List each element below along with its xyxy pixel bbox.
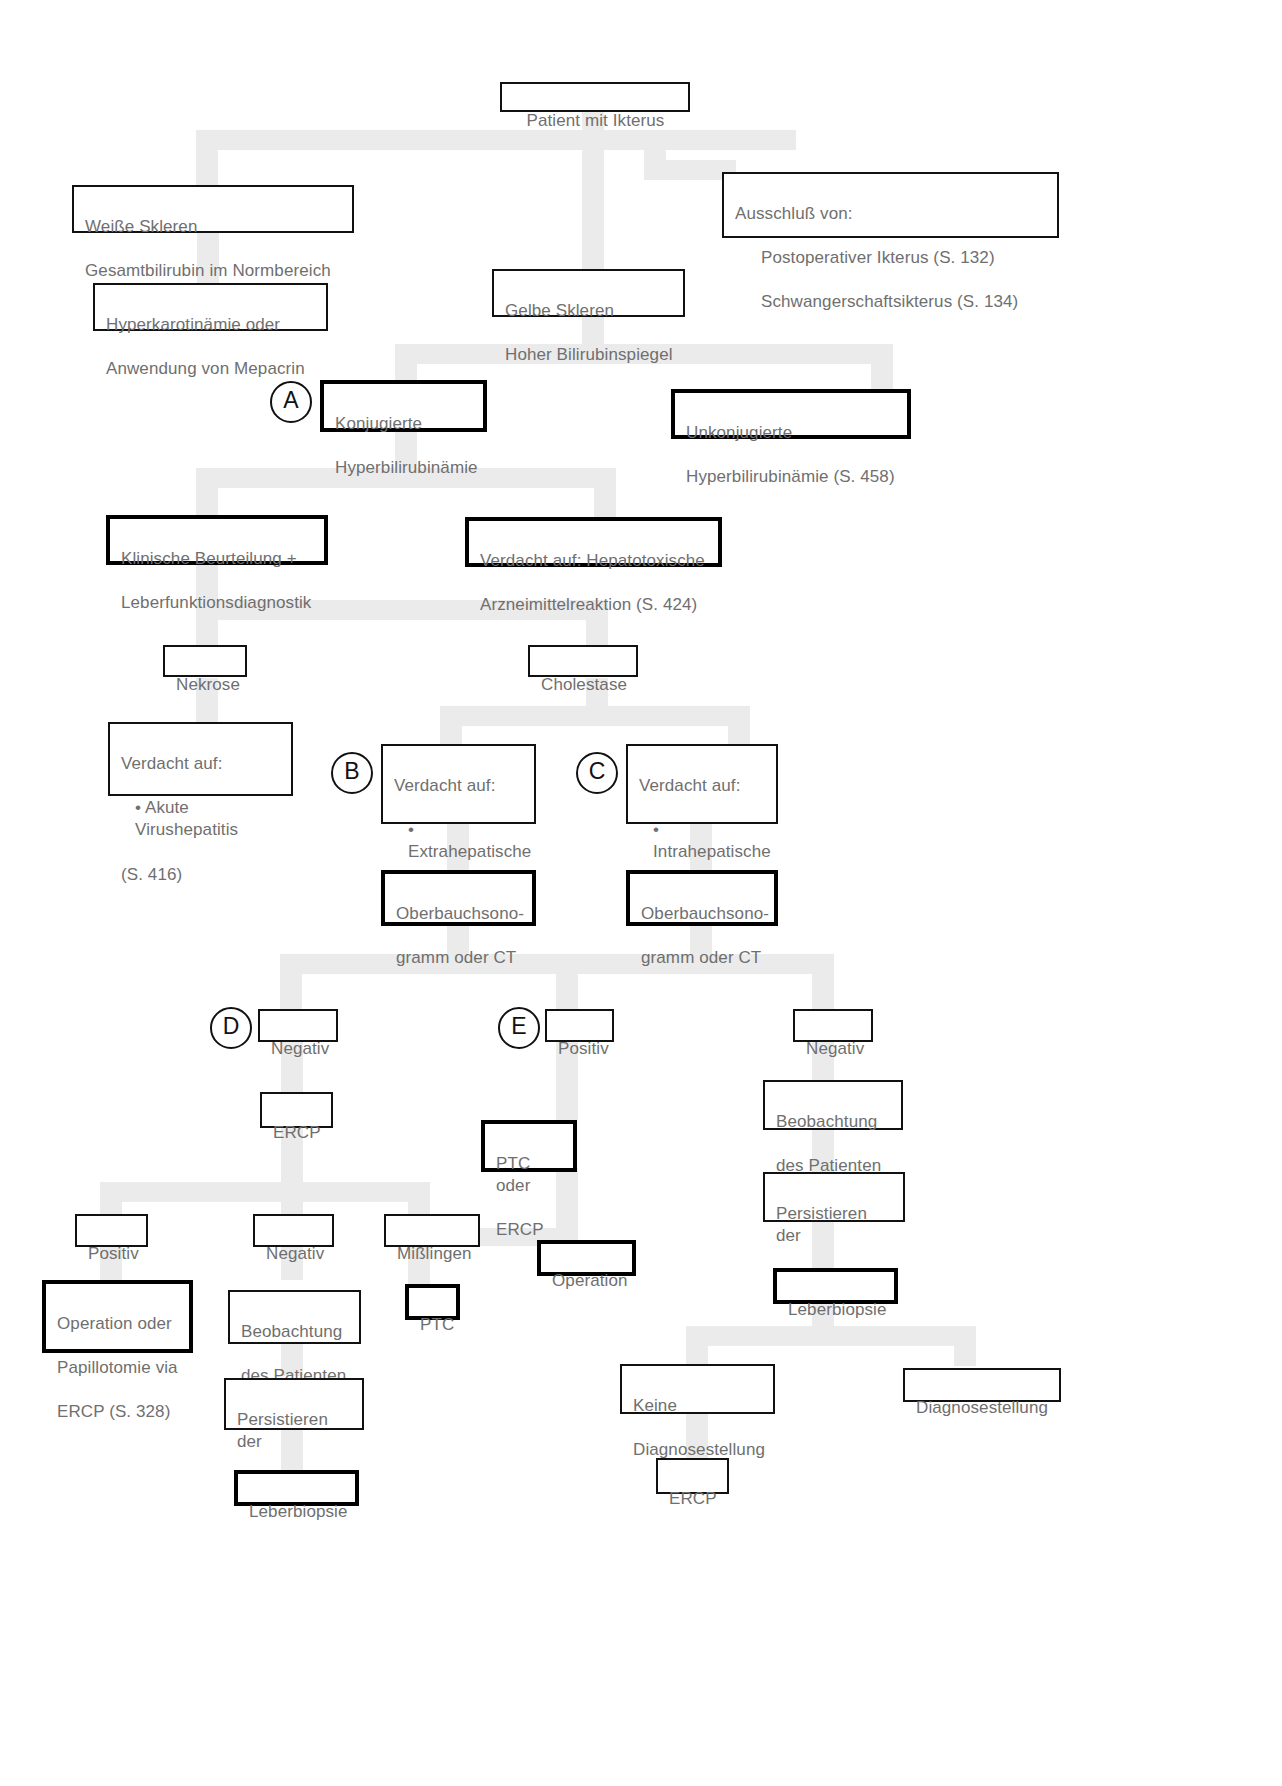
node-line-2: Leberfunktionsdiagnostik bbox=[121, 592, 314, 614]
node-text: Negativ bbox=[271, 1038, 326, 1060]
node-line-1: Oberbauchsono- bbox=[641, 903, 764, 925]
node-leberbiopsie-bottomleft[interactable]: Leberbiopsie bbox=[234, 1470, 359, 1506]
node-ptc-oder-ercp[interactable]: PTC oder ERCP bbox=[481, 1120, 577, 1172]
node-line-3: ERCP (S. 328) bbox=[57, 1401, 179, 1423]
node-ausschluss-von[interactable]: Ausschluß von: Postoperativer Ikterus (S… bbox=[722, 172, 1059, 238]
node-nekrose[interactable]: Nekrose bbox=[163, 645, 247, 677]
node-line-2: Hyperbilirubinämie bbox=[335, 457, 473, 479]
node-klinische-beurteilung[interactable]: Klinische Beurteilung + Leberfunktionsdi… bbox=[106, 515, 328, 565]
node-text: ERCP bbox=[273, 1122, 321, 1144]
node-line-1: Verdacht auf: bbox=[639, 775, 766, 797]
node-line-1: PTC oder bbox=[496, 1153, 563, 1197]
connector-cholestasis-to-b bbox=[440, 706, 462, 744]
node-hyperkarotinaemie[interactable]: Hyperkarotinämie oder Anwendung von Mepa… bbox=[93, 283, 328, 331]
node-line-1: Oberbauchsono- bbox=[396, 903, 522, 925]
node-ercp-bottom[interactable]: ERCP bbox=[656, 1458, 729, 1494]
marker-d[interactable]: D bbox=[210, 1007, 252, 1049]
node-text: Leberbiopsie bbox=[788, 1299, 884, 1321]
node-text: PTC bbox=[420, 1314, 446, 1336]
node-line-1: Unkonjugierte bbox=[686, 422, 897, 444]
node-text: Diagnosestellung bbox=[916, 1397, 1049, 1419]
node-line-1: Persistieren der bbox=[776, 1203, 893, 1247]
node-text: Negativ bbox=[806, 1038, 861, 1060]
node-konjugierte-hyperbilirubinaemie[interactable]: Konjugierte Hyperbilirubinämie bbox=[320, 380, 487, 432]
node-negativ-right[interactable]: Negativ bbox=[793, 1009, 873, 1042]
node-positiv-e[interactable]: Positiv bbox=[545, 1009, 614, 1042]
node-operation[interactable]: Operation bbox=[537, 1240, 636, 1276]
node-hepatotoxische-arzneimittelreaktion[interactable]: Verdacht auf: Hepatotoxische Arzneimitte… bbox=[465, 517, 722, 567]
node-oberbauchsonogramm-right[interactable]: Oberbauchsono- gramm oder CT bbox=[626, 870, 778, 926]
connector-cholestasis-to-c bbox=[728, 706, 750, 744]
node-line-1: Verdacht auf: bbox=[121, 753, 281, 775]
node-keine-diagnosestellung[interactable]: Keine Diagnosestellung bbox=[620, 1364, 775, 1414]
node-misslingen[interactable]: Mißlingen bbox=[384, 1214, 480, 1247]
flowchart-canvas: Patient mit Ikterus Weiße Skleren Gesamt… bbox=[0, 0, 1282, 1786]
marker-b[interactable]: B bbox=[331, 752, 373, 794]
node-line-2: • Intrahepatische bbox=[639, 819, 766, 863]
node-negativ-bottomleft[interactable]: Negativ bbox=[253, 1214, 334, 1247]
node-diagnosestellung[interactable]: Diagnosestellung bbox=[903, 1368, 1061, 1402]
node-patient-mit-ikterus[interactable]: Patient mit Ikterus bbox=[500, 82, 690, 112]
node-unkonjugierte-hyperbilirubinaemie[interactable]: Unkonjugierte Hyperbilirubinämie (S. 458… bbox=[671, 389, 911, 439]
node-ercp-mid[interactable]: ERCP bbox=[260, 1092, 333, 1128]
marker-a[interactable]: A bbox=[270, 381, 312, 423]
node-text: Negativ bbox=[266, 1243, 322, 1265]
node-weisse-skleren[interactable]: Weiße Skleren Gesamtbilirubin im Normber… bbox=[72, 185, 354, 233]
node-intrahepatische-cholestase[interactable]: Verdacht auf: • Intrahepatische Cholesta… bbox=[626, 744, 778, 824]
node-line-1: Klinische Beurteilung + bbox=[121, 548, 314, 570]
node-line-3: (S. 416) bbox=[121, 864, 281, 886]
node-persistieren-bottomleft[interactable]: Persistieren der Cholestase bbox=[224, 1378, 364, 1430]
node-line-2: gramm oder CT bbox=[641, 947, 764, 969]
node-line-2: ERCP bbox=[496, 1219, 563, 1241]
node-cholestase[interactable]: Cholestase bbox=[528, 645, 638, 677]
node-persistieren-right[interactable]: Persistieren der Cholestase bbox=[763, 1172, 905, 1222]
node-line-2: Hoher Bilirubinspiegel bbox=[505, 344, 673, 366]
node-line-2: Arzneimittelreaktion (S. 424) bbox=[480, 594, 708, 616]
node-line-1: Hyperkarotinämie oder bbox=[106, 314, 316, 336]
marker-e[interactable]: E bbox=[498, 1007, 540, 1049]
node-text: Operation bbox=[552, 1270, 622, 1292]
node-oberbauchsonogramm-left[interactable]: Oberbauchsono- gramm oder CT bbox=[381, 870, 536, 926]
node-akute-virushepatitis[interactable]: Verdacht auf: • Akute Virushepatitis (S.… bbox=[108, 722, 293, 796]
node-line-1: Operation oder bbox=[57, 1313, 179, 1335]
node-text: Positiv bbox=[88, 1243, 136, 1265]
node-line-2: Papillotomie via bbox=[57, 1357, 179, 1379]
node-line-1: Verdacht auf: Hepatotoxische bbox=[480, 550, 708, 572]
node-line-1: Weiße Skleren bbox=[85, 216, 342, 238]
node-extrahepatische-cholestase[interactable]: Verdacht auf: • Extrahepatische Cholesta… bbox=[381, 744, 536, 824]
connector-conj-to-hepatotoxic bbox=[594, 468, 616, 518]
node-line-1: Gelbe Skleren bbox=[505, 300, 673, 322]
connector-sonoright-to-neg bbox=[812, 954, 834, 1010]
node-line-1: Verdacht auf: bbox=[394, 775, 524, 797]
connector-biopsy-to-diag bbox=[954, 1326, 976, 1366]
node-gelbe-skleren[interactable]: Gelbe Skleren Hoher Bilirubinspiegel bbox=[492, 269, 685, 317]
connector-ercp-to-negativ bbox=[281, 1182, 303, 1214]
connector-sonoleft-to-pos bbox=[556, 954, 578, 1010]
node-operation-oder-papillotomie[interactable]: Operation oder Papillotomie via ERCP (S.… bbox=[42, 1280, 193, 1353]
node-text: Nekrose bbox=[176, 674, 235, 696]
node-line-1: Konjugierte bbox=[335, 413, 473, 435]
marker-c[interactable]: C bbox=[576, 752, 618, 794]
node-text: ERCP bbox=[669, 1488, 717, 1510]
node-beobachtung-bottomleft[interactable]: Beobachtung des Patienten bbox=[228, 1290, 361, 1344]
node-line-2: Anwendung von Mepacrin bbox=[106, 358, 316, 380]
node-text: Leberbiopsie bbox=[249, 1501, 345, 1523]
connector-sonoleft-to-neg bbox=[280, 954, 302, 1010]
node-positiv-bottomleft[interactable]: Positiv bbox=[75, 1214, 148, 1247]
node-line-1: Ausschluß von: bbox=[735, 203, 1047, 225]
node-line-1: Keine bbox=[633, 1395, 763, 1417]
node-ptc[interactable]: PTC bbox=[405, 1284, 460, 1320]
connector-ercp-to-misslingen bbox=[408, 1182, 430, 1214]
node-line-2: Postoperativer Ikterus (S. 132) bbox=[735, 247, 1047, 269]
node-beobachtung-right[interactable]: Beobachtung des Patienten bbox=[763, 1080, 903, 1130]
node-leberbiopsie-right[interactable]: Leberbiopsie bbox=[773, 1268, 898, 1304]
connector-root-to-left bbox=[196, 130, 218, 188]
node-line-2: • Akute Virushepatitis bbox=[121, 797, 281, 841]
connector-yellow-to-unconj bbox=[871, 344, 893, 389]
node-text: Patient mit Ikterus bbox=[513, 110, 678, 132]
node-line-1: Beobachtung bbox=[241, 1321, 349, 1343]
connector-ercp-bus bbox=[100, 1182, 430, 1202]
node-line-2: Gesamtbilirubin im Normbereich bbox=[85, 260, 342, 282]
node-negativ-d[interactable]: Negativ bbox=[258, 1009, 338, 1042]
node-line-2: • Extrahepatische bbox=[394, 819, 524, 863]
